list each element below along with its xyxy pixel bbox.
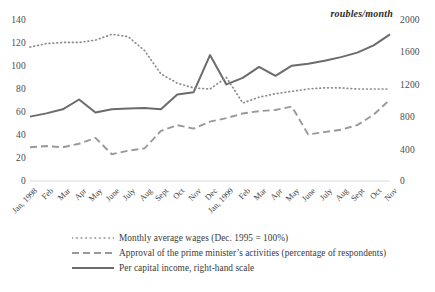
series-line-income: [30, 34, 390, 116]
y-right-tick-400: 400: [400, 145, 430, 155]
y-left-tick-80: 80: [0, 84, 26, 94]
y-right-tick-1200: 1200: [400, 80, 430, 90]
x-tick-label: Jan, 1998: [0, 186, 39, 263]
y-right-tick-2000: 2000: [400, 15, 430, 25]
legend-label-income: Per capital income, right-hand scale: [119, 263, 254, 273]
legend-label-wages: Monthly average wages (Dec. 1995 = 100%): [119, 233, 288, 243]
legend-item-income: Per capital income, right-hand scale: [72, 260, 422, 275]
legend-label-approval: Approval of the prime minister’s activit…: [119, 248, 386, 258]
series-line-approval: [30, 100, 390, 155]
plot-area: [30, 18, 390, 181]
legend-item-wages: Monthly average wages (Dec. 1995 = 100%): [72, 230, 422, 245]
chart-legend: Monthly average wages (Dec. 1995 = 100%)…: [72, 230, 422, 275]
x-tick-label: Feb: [0, 186, 56, 263]
y-left-tick-40: 40: [0, 130, 26, 140]
plot-svg: [30, 18, 390, 181]
chart-root: roubles/month 140 120 100 80 60 40 20 0 …: [0, 0, 435, 292]
cropped-title: [0, 0, 435, 7]
y-left-tick-100: 100: [0, 61, 26, 71]
x-tick-label: Mar: [0, 186, 72, 263]
y-right-tick-800: 800: [400, 112, 430, 122]
legend-swatch-dotted-icon: [72, 233, 114, 243]
legend-item-approval: Approval of the prime minister’s activit…: [72, 245, 422, 260]
y-left-tick-140: 140: [0, 15, 26, 25]
legend-swatch-dashed-icon: [72, 248, 114, 258]
y-left-tick-120: 120: [0, 38, 26, 48]
series-line-wages: [30, 34, 390, 103]
y-right-tick-1600: 1600: [400, 47, 430, 57]
y-left-tick-0: 0: [0, 176, 26, 186]
legend-swatch-solid-icon: [72, 263, 114, 273]
y-left-tick-20: 20: [0, 153, 26, 163]
y-right-tick-0: 0: [400, 176, 430, 186]
y-left-tick-60: 60: [0, 107, 26, 117]
